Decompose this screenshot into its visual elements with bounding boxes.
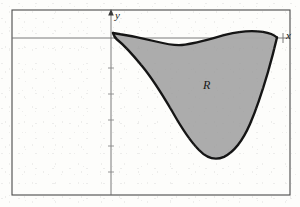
- y-axis-label: y: [115, 10, 120, 21]
- region-label-R: R: [203, 79, 210, 91]
- region-diagram-svg: [0, 0, 300, 207]
- x-axis-label: x: [286, 30, 291, 41]
- shaded-region-R: [113, 31, 277, 158]
- figure-canvas: y x R: [0, 0, 300, 207]
